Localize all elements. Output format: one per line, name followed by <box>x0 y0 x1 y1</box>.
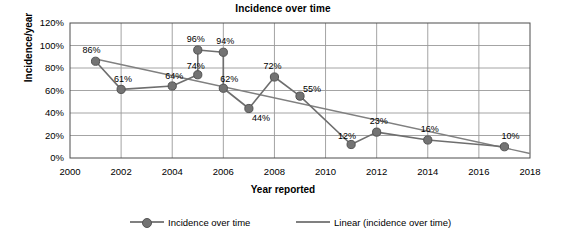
data-point-marker[interactable] <box>373 128 381 136</box>
data-point-marker[interactable] <box>117 85 125 93</box>
data-point-label: 61% <box>114 74 132 84</box>
legend-marker-line-icon <box>296 217 330 227</box>
grid-lines <box>70 23 530 158</box>
data-point-marker[interactable] <box>347 140 355 148</box>
data-point-marker[interactable] <box>424 136 432 144</box>
data-point-label: 74% <box>187 61 205 71</box>
data-point-label: 10% <box>501 131 519 141</box>
chart-container: Incidence over time Incidence/year Year … <box>0 0 566 241</box>
data-point-label: 86% <box>83 45 101 55</box>
data-point-marker[interactable] <box>245 104 253 112</box>
legend-item-linear[interactable]: Linear (incidence over time) <box>296 216 451 228</box>
data-point-marker[interactable] <box>91 57 99 65</box>
trendline-path <box>96 59 530 154</box>
data-point-label: 62% <box>220 74 238 84</box>
data-point-marker[interactable] <box>168 82 176 90</box>
plot-area <box>0 0 566 241</box>
data-point-label: 94% <box>216 36 234 46</box>
legend-marker-line-circle-icon <box>130 217 164 227</box>
data-point-label: 64% <box>165 71 183 81</box>
data-point-marker[interactable] <box>270 73 278 81</box>
data-point-marker[interactable] <box>500 143 508 151</box>
data-point-marker[interactable] <box>194 71 202 79</box>
data-point-label: 16% <box>421 124 439 134</box>
data-point-label: 23% <box>370 116 388 126</box>
chart-legend: Incidence over time Linear (incidence ov… <box>0 212 566 234</box>
data-point-label: 96% <box>187 34 205 44</box>
data-point-label: 72% <box>263 61 281 71</box>
trendline-series <box>96 59 530 154</box>
data-point-marker[interactable] <box>194 46 202 54</box>
data-point-marker[interactable] <box>219 84 227 92</box>
legend-item-incidence[interactable]: Incidence over time <box>130 216 250 228</box>
data-point-label: 55% <box>303 84 321 94</box>
data-point-label: 12% <box>338 131 356 141</box>
data-point-marker[interactable] <box>219 48 227 56</box>
legend-label-linear: Linear (incidence over time) <box>334 217 451 228</box>
legend-label-incidence: Incidence over time <box>168 217 250 228</box>
data-point-label: 44% <box>252 113 270 123</box>
